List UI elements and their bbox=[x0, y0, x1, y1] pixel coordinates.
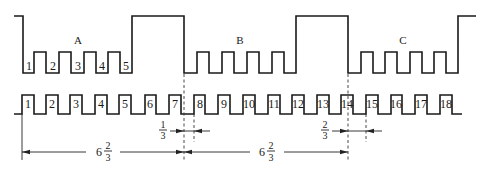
bottom-pulse-label: 14 bbox=[341, 97, 353, 111]
bottom-pulse-labels: 1 2 3 4 5 6 7 8 9 10 11 12 13 14 15 16 1… bbox=[25, 97, 452, 111]
bottom-pulse-label: 11 bbox=[268, 97, 280, 111]
period-1-whole: 6 bbox=[96, 145, 102, 159]
top-waveform bbox=[14, 16, 476, 73]
bottom-pulse-label: 10 bbox=[243, 97, 255, 111]
bottom-pulse-label: 1 bbox=[25, 97, 31, 111]
offset-1-numerator: 1 bbox=[161, 119, 166, 130]
bottom-pulse-label: 18 bbox=[440, 97, 452, 111]
offset-dimension-1: 1 3 bbox=[159, 119, 210, 141]
offset-dimension-2: 2 3 bbox=[321, 119, 382, 141]
bottom-pulse-label: 17 bbox=[415, 97, 427, 111]
top-pulse-label: 3 bbox=[75, 59, 81, 73]
bottom-pulse-label: 2 bbox=[49, 97, 55, 111]
offset-2-denominator: 3 bbox=[323, 130, 328, 141]
bottom-pulse-label: 15 bbox=[366, 97, 378, 111]
bottom-pulse-label: 13 bbox=[317, 97, 329, 111]
bottom-pulse-label: 16 bbox=[390, 97, 402, 111]
segment-label-a: A bbox=[74, 34, 82, 46]
offset-2-numerator: 2 bbox=[323, 119, 328, 130]
period-2-whole: 6 bbox=[259, 145, 265, 159]
top-pulse-label: 4 bbox=[99, 59, 105, 73]
period-dimension-1: 6 2 3 bbox=[22, 140, 184, 163]
bottom-pulse-label: 9 bbox=[221, 97, 227, 111]
bottom-pulse-label: 7 bbox=[172, 97, 178, 111]
top-pulse-label: 5 bbox=[123, 59, 129, 73]
period-2-numerator: 2 bbox=[269, 140, 274, 151]
top-pulse-label: 1 bbox=[26, 59, 32, 73]
bottom-pulse-label: 3 bbox=[73, 97, 79, 111]
period-1-numerator: 2 bbox=[106, 140, 111, 151]
segment-label-c: C bbox=[399, 34, 406, 46]
timing-diagram: A B C 1 2 3 4 5 1 2 3 4 5 6 7 8 9 10 11 … bbox=[0, 0, 486, 173]
bottom-pulse-label: 8 bbox=[197, 97, 203, 111]
offset-1-denominator: 3 bbox=[161, 130, 166, 141]
top-pulse-label: 2 bbox=[50, 59, 56, 73]
period-2-denominator: 3 bbox=[269, 152, 274, 163]
period-dimension-2: 6 2 3 bbox=[184, 140, 348, 163]
bottom-pulse-label: 6 bbox=[147, 97, 153, 111]
bottom-pulse-label: 5 bbox=[122, 97, 128, 111]
segment-label-b: B bbox=[236, 34, 243, 46]
bottom-pulse-label: 4 bbox=[98, 97, 104, 111]
bottom-pulse-label: 12 bbox=[292, 97, 304, 111]
period-1-denominator: 3 bbox=[106, 152, 111, 163]
